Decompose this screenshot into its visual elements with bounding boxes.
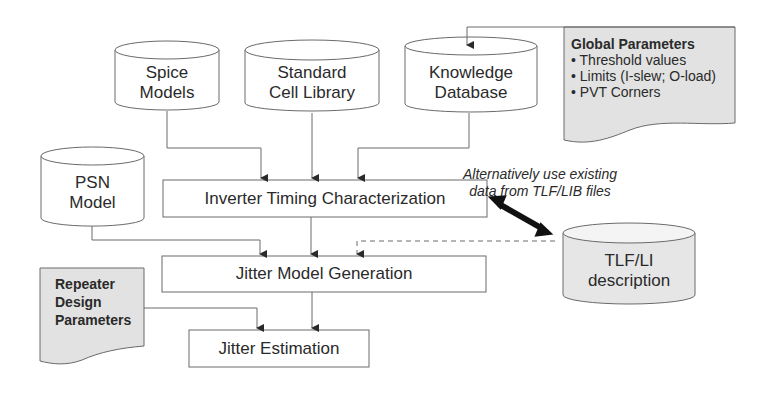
edge-repeater-to-je <box>144 308 257 328</box>
label-line: Database <box>405 83 537 103</box>
label-jitter-estimation: Jitter Estimation <box>189 330 369 367</box>
label-line: Standard <box>245 63 379 83</box>
label-psn-model: PSN Model <box>41 173 144 213</box>
label-line: Spice <box>115 63 219 83</box>
label-inverter-timing-characterization: Inverter Timing Characterization <box>163 180 487 217</box>
double-arrow-itc-tlf <box>488 195 554 237</box>
annotation-line: Alternatively use existing <box>450 166 630 183</box>
global-parameter-item: • Limits (I-slew; O-load) <box>571 68 736 84</box>
label-line: Repeater <box>55 275 145 293</box>
label-line: TLF/LI <box>563 251 695 271</box>
label-jitter-model-generation: Jitter Model Generation <box>162 256 486 292</box>
label-line: Models <box>115 83 219 103</box>
label-knowledge-database: Knowledge Database <box>405 63 537 103</box>
label-line: Model <box>41 193 144 213</box>
label-spice-models: Spice Models <box>115 63 219 103</box>
global-parameter-item: • Threshold values <box>571 52 736 68</box>
label-line: PSN <box>41 173 144 193</box>
edge-spice-to-itc <box>167 111 261 178</box>
global-parameter-item: • PVT Corners <box>571 84 736 100</box>
label-line: Knowledge <box>405 63 537 83</box>
global-parameters-text: Global Parameters • Threshold values • L… <box>571 36 736 100</box>
annotation-tlf-lib: Alternatively use existing data from TLF… <box>450 166 630 200</box>
label-tlf-li-description: TLF/LI description <box>563 251 695 291</box>
label-line: Design <box>55 293 145 311</box>
annotation-line: data from TLF/LIB files <box>450 183 630 200</box>
edge-psn-to-jmg <box>92 226 260 254</box>
label-line: Cell Library <box>245 83 379 103</box>
global-parameters-title: Global Parameters <box>571 36 736 52</box>
repeater-design-parameters-text: Repeater Design Parameters <box>55 275 145 329</box>
label-line: description <box>563 271 695 291</box>
label-line: Parameters <box>55 311 145 329</box>
edge-tlf-to-jmg <box>357 241 555 254</box>
label-standard-cell-library: Standard Cell Library <box>245 63 379 103</box>
